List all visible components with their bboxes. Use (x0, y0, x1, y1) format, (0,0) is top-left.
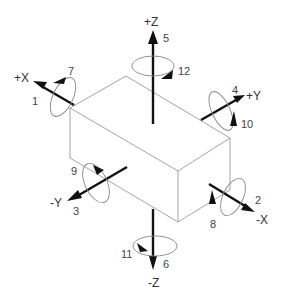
plus-y-rotation-arrowhead-icon (230, 111, 237, 126)
minus-y-arrowhead-icon (67, 190, 82, 201)
minus-y-label: -Y (50, 196, 62, 210)
minus-x-translation-number: 2 (255, 194, 261, 206)
plus-z-arrowhead-icon (148, 30, 158, 44)
plus-y-rotation-number: 10 (241, 118, 253, 130)
plus-x-arrow-shaft (43, 87, 74, 105)
minus-x-rotation-number: 8 (210, 218, 216, 230)
plus-y-translation-number: 4 (232, 84, 238, 96)
minus-y-translation-number: 3 (73, 205, 79, 217)
axis-minus-z: -Z 6 11 (121, 209, 177, 290)
minus-y-rotation-number: 9 (71, 165, 77, 177)
minus-y-arrow-shaft (79, 167, 127, 195)
plus-x-rotation-number: 7 (68, 65, 74, 77)
plus-z-label: +Z (144, 15, 158, 29)
minus-z-label: -Z (148, 276, 159, 290)
axis-minus-y: -Y 3 9 (50, 159, 127, 217)
plus-x-label: +X (14, 71, 29, 85)
box (70, 76, 230, 222)
minus-z-arrowhead-icon (149, 256, 157, 270)
minus-x-rotation-loop-icon (215, 175, 250, 220)
dof-diagram: +Z 5 12 -Z 6 11 +X 1 7 -X 2 8 +Y (0, 0, 283, 304)
plus-z-rotation-number: 12 (178, 65, 190, 77)
minus-z-rotation-number: 11 (121, 248, 132, 260)
plus-x-rotation-arrowhead-icon (53, 77, 66, 84)
minus-z-translation-number: 6 (163, 258, 169, 270)
plus-y-label: +Y (246, 89, 261, 103)
axis-plus-z: +Z 5 12 (132, 15, 190, 124)
axis-minus-x: -X 2 8 (209, 175, 268, 230)
box-top-face (70, 76, 230, 171)
minus-x-rotation-arrowhead-icon (209, 190, 216, 204)
minus-z-rotation-arrowhead-icon (137, 243, 148, 252)
minus-x-label: -X (256, 213, 268, 227)
plus-z-translation-number: 5 (163, 32, 169, 44)
box-side-face (178, 138, 230, 222)
plus-x-translation-number: 1 (32, 95, 38, 107)
axis-plus-x: +X 1 7 (14, 65, 81, 120)
minus-y-rotation-arrowhead-icon (93, 165, 104, 175)
